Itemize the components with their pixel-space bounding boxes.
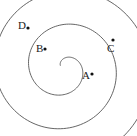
point-a-marker	[90, 72, 93, 75]
point-b-marker	[43, 47, 46, 50]
point-d-label: D	[18, 19, 26, 31]
spiral-diagram: ABCD	[0, 0, 137, 136]
point-d-marker	[26, 26, 29, 29]
point-c-label: C	[107, 42, 114, 54]
point-a-label: A	[82, 69, 90, 81]
point-b-label: B	[36, 42, 43, 54]
